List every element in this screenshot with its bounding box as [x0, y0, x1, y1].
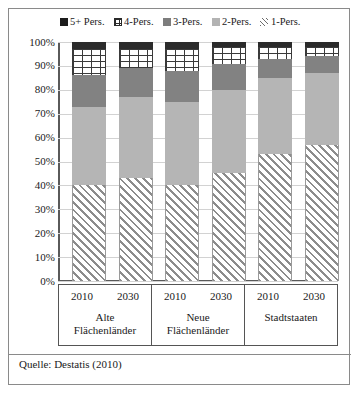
plot-area: [58, 42, 338, 281]
group-name: Neue Flächenländer: [152, 311, 244, 336]
hatch-marker-icon: [260, 18, 268, 26]
bar-segment: [258, 59, 292, 78]
bar-segment: [119, 178, 153, 281]
bar-segment: [72, 42, 106, 49]
year-labels: 2010 2030: [59, 285, 151, 302]
bar-segment: [258, 47, 292, 59]
bar-segment: [119, 49, 153, 68]
bar-segment: [305, 73, 339, 145]
legend-item-3: 3-Pers.: [163, 17, 203, 28]
category-group-stadtstaaten: 2010 2030 Stadtstaaten: [245, 285, 337, 345]
y-axis-tick: 20%: [35, 228, 55, 239]
bar-segment: [119, 68, 153, 97]
y-axis-tick: 0%: [40, 276, 55, 287]
y-axis-tick: 100%: [29, 37, 55, 48]
y-axis-labels: 100%90%80%70%60%50%40%30%20%10%0%: [17, 35, 55, 288]
bar-stack: [305, 42, 339, 281]
y-axis-tick: 30%: [35, 204, 55, 215]
bar-segment: [119, 42, 153, 49]
bar-stack: [165, 42, 199, 281]
bar-segment: [212, 64, 246, 90]
gridline: [58, 281, 338, 282]
legend-item-5plus: 5+ Pers.: [60, 17, 105, 28]
group-name-line2: Flächenländer: [167, 324, 229, 336]
bar-segment: [212, 90, 246, 174]
y-axis-tick: 40%: [35, 180, 55, 191]
bar-segment: [212, 173, 246, 281]
y-axis-tick: 90%: [35, 60, 55, 71]
group-name: Alte Flächenländer: [59, 311, 151, 336]
bar-segment: [165, 71, 199, 102]
category-group-alte: 2010 2030 Alte Flächenländer: [59, 285, 152, 345]
legend-label: 5+ Pers.: [70, 17, 105, 28]
category-axis-table: 2010 2030 Alte Flächenländer 2010 2030 N…: [58, 284, 338, 346]
legend-item-2: 2-Pers.: [212, 17, 252, 28]
year-label: 2010: [257, 290, 279, 302]
year-label: 2030: [210, 290, 232, 302]
group-name-line2: Flächenländer: [74, 324, 136, 336]
grid-marker-icon: [114, 18, 122, 26]
year-label: 2010: [164, 290, 186, 302]
group-name: Stadtstaaten: [245, 311, 337, 324]
bar-segment: [258, 154, 292, 281]
y-axis-tick: 50%: [35, 156, 55, 167]
legend-label: 4-Pers.: [124, 17, 153, 28]
source-note: Quelle: Destatis (2010): [19, 358, 122, 370]
bar-segment: [212, 47, 246, 64]
square-marker-light-gray-icon: [212, 18, 220, 26]
bar-stack: [212, 42, 246, 281]
bar-segment: [119, 97, 153, 178]
y-axis-tick: 10%: [35, 252, 55, 263]
legend-label: 2-Pers.: [222, 17, 251, 28]
legend-label: 1-Pers.: [271, 17, 300, 28]
square-marker-black-icon: [60, 18, 68, 26]
year-labels: 2010 2030: [152, 285, 244, 302]
y-axis-tick: 60%: [35, 132, 55, 143]
bar-segment: [165, 42, 199, 49]
y-axis-tick: 80%: [35, 84, 55, 95]
bar-segment: [72, 185, 106, 281]
bar-segment: [72, 49, 106, 75]
year-label: 2010: [71, 290, 93, 302]
chart-frame: 5+ Pers. 4-Pers. 3-Pers. 2-Pers. 1-Pers.…: [8, 8, 350, 385]
y-axis-tick: 70%: [35, 108, 55, 119]
bar-segment: [305, 47, 339, 57]
bar-segment: [165, 102, 199, 186]
bar-segment: [165, 49, 199, 71]
bar-stack: [119, 42, 153, 281]
category-group-neue: 2010 2030 Neue Flächenländer: [152, 285, 245, 345]
bar-stack: [72, 42, 106, 281]
legend-item-4: 4-Pers.: [114, 17, 154, 28]
group-name-line1: Stadtstaaten: [264, 311, 317, 323]
bar-segment: [72, 107, 106, 186]
year-label: 2030: [117, 290, 139, 302]
group-name-line1: Alte: [96, 311, 115, 323]
square-marker-dark-gray-icon: [163, 18, 171, 26]
bar-segment: [305, 56, 339, 73]
bar-stack: [258, 42, 292, 281]
year-label: 2030: [303, 290, 325, 302]
group-name-line1: Neue: [186, 311, 209, 323]
bar-segment: [305, 145, 339, 281]
bar-segment: [258, 78, 292, 154]
legend-label: 3-Pers.: [173, 17, 202, 28]
source-separator: [9, 354, 351, 355]
bar-segment: [72, 75, 106, 106]
chart-legend: 5+ Pers. 4-Pers. 3-Pers. 2-Pers. 1-Pers.: [9, 17, 351, 28]
legend-item-1: 1-Pers.: [260, 17, 300, 28]
year-labels: 2010 2030: [245, 285, 337, 302]
bar-segment: [165, 185, 199, 281]
